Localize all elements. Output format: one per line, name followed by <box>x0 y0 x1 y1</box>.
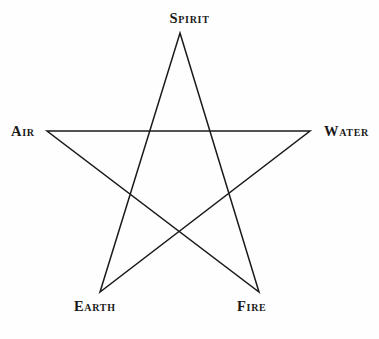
pentagram-shape <box>0 0 379 339</box>
vertex-label-fire: Fire <box>237 299 266 314</box>
vertex-label-water: Water <box>324 124 369 139</box>
vertex-label-spirit: Spirit <box>0 11 379 26</box>
pentagram-star-path <box>47 33 310 292</box>
pentagram-diagram: Spirit Water Fire Earth Air <box>0 0 379 339</box>
vertex-label-air: Air <box>11 124 35 139</box>
vertex-label-earth: Earth <box>74 299 116 314</box>
